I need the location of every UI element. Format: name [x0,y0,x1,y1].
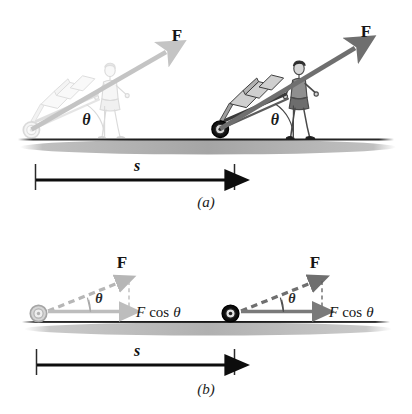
component-label-F-b-right: F [328,304,339,320]
force-label-b-left: F [117,253,127,272]
component-label-cos-b-left: cos [149,304,169,320]
angle-label-a-left: θ [82,111,91,128]
component-label-cos-b-right: cos [342,304,362,320]
svg-text:Fcosθ: Fcosθ [135,304,181,320]
ground-shadow-b [24,323,392,336]
force-label-a-left: F [172,26,182,45]
panel-caption-b: (b) [197,381,215,398]
ground-shadow-a [20,140,396,155]
panel-caption-a: (a) [197,194,215,211]
component-label-theta-b-left: θ [173,304,181,320]
svg-text:Fcosθ: Fcosθ [328,304,374,320]
force-label-b-right: F [310,253,320,272]
figure-canvas: θ F [0,0,412,414]
component-label-F-b-left: F [135,304,146,320]
displacement-label-a: s [133,157,140,174]
component-label-b-left: Fcosθ [135,304,181,320]
force-label-a-right: F [361,22,371,41]
component-label-b-right: Fcosθ [328,304,374,320]
angle-label-a-right: θ [271,111,280,128]
component-label-theta-b-right: θ [366,304,374,320]
ground-line-b [22,321,390,323]
angle-label-b-right: θ [288,291,296,306]
wheel-b-left [30,305,46,321]
angle-label-b-left: θ [95,291,103,306]
physics-figure: θ F [0,0,412,414]
wheel-b-right [222,305,239,322]
displacement-label-b: s [133,342,140,359]
ground-line-a [18,139,394,141]
